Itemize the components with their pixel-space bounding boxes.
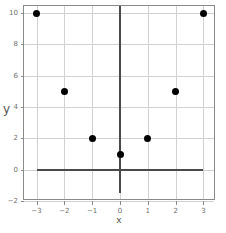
x-tick-mark: [92, 201, 93, 205]
y-tick-label: 8: [14, 40, 18, 49]
data-point: [89, 135, 96, 142]
data-point: [33, 10, 40, 17]
gridline-horizontal: [24, 201, 214, 202]
scatter-plot-figure: −3−2−10123−20246810 y x: [0, 0, 226, 233]
y-tick-mark: [21, 76, 25, 77]
y-tick-mark: [21, 107, 25, 108]
y-tick-mark: [21, 138, 25, 139]
y-tick-label: 10: [9, 9, 18, 18]
x-tick-mark: [64, 201, 65, 205]
x-tick-mark: [176, 201, 177, 205]
x-tick-mark: [203, 201, 204, 205]
x-tick-mark: [148, 201, 149, 205]
data-point: [172, 88, 179, 95]
y-tick-label: 6: [14, 71, 18, 80]
x-tick-mark: [37, 201, 38, 205]
plot-area: −3−2−10123−20246810: [23, 5, 215, 200]
y-tick-label: 0: [14, 165, 18, 174]
y-tick-mark: [21, 13, 25, 14]
y-tick-mark: [21, 201, 25, 202]
data-point: [200, 10, 207, 17]
data-point: [144, 135, 151, 142]
data-point: [117, 151, 124, 158]
y-axis-label: y: [3, 102, 10, 116]
y-tick-label: −2: [8, 197, 18, 206]
data-point: [61, 88, 68, 95]
y-axis-zero-line: [119, 6, 121, 193]
y-tick-mark: [21, 170, 25, 171]
x-axis-label: x: [23, 215, 215, 225]
y-tick-label: 2: [14, 134, 18, 143]
y-tick-mark: [21, 44, 25, 45]
y-tick-label: 4: [14, 103, 18, 112]
x-tick-mark: [120, 201, 121, 205]
